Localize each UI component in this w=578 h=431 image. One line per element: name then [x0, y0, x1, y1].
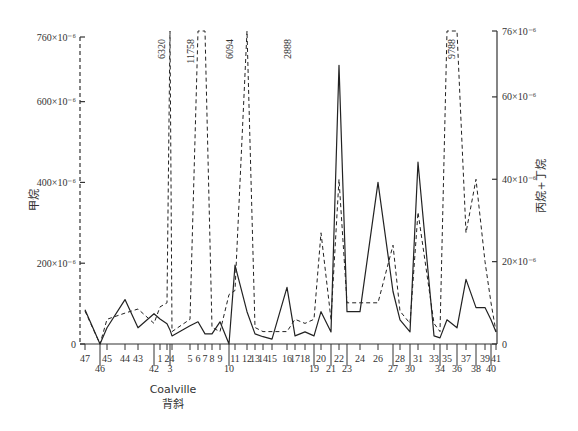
x-tick-label: 42	[149, 363, 159, 374]
x-tick-label: 24	[355, 353, 365, 364]
left-axis-title: 甲烷	[27, 189, 41, 211]
off-scale-value-label: 2888	[282, 39, 293, 59]
off-scale-value-label: 6094	[224, 39, 235, 59]
x-tick-label: 8	[210, 353, 215, 364]
left-tick-label: 400×10⁻⁶	[37, 177, 77, 188]
x-tick-label: 17	[290, 353, 300, 364]
x-tick-label: 35	[442, 353, 452, 364]
x-tick-label: 15	[267, 353, 277, 364]
chart: 0200×10⁻⁶400×10⁻⁶600×10⁻⁶760×10⁻⁶ 020×10…	[0, 0, 578, 431]
propane-butane-line	[85, 31, 496, 344]
x-tick-label: 36	[452, 363, 462, 374]
right-tick-label: 76×10⁻⁶	[502, 26, 537, 37]
x-tick-label: 19	[309, 363, 319, 374]
off-scale-value-label: 11758	[185, 39, 196, 64]
x-tick-label: 11	[230, 353, 240, 364]
off-scale-annotations: 632011758609428889788	[156, 39, 457, 64]
x-tick-label: 31	[413, 353, 423, 364]
x-tick-label: 28	[395, 353, 405, 364]
off-scale-value-label: 6320	[156, 39, 167, 59]
left-y-axis: 0200×10⁻⁶400×10⁻⁶600×10⁻⁶760×10⁻⁶	[37, 32, 85, 350]
x-tick-label: 40	[486, 363, 496, 374]
x-axis: 4746454443421234567891011121314151617181…	[80, 344, 501, 374]
methane-line	[85, 65, 496, 344]
right-tick-label: 60×10⁻⁶	[502, 91, 537, 102]
x-tick-label: 4	[170, 353, 175, 364]
x-tick-label: 5	[188, 353, 193, 364]
x-tick-label: 30	[405, 363, 415, 374]
x-tick-label: 7	[203, 353, 208, 364]
right-tick-label: 0	[502, 339, 507, 350]
x-tick-label: 9	[218, 353, 223, 364]
x-tick-label: 41	[491, 353, 501, 364]
left-tick-label: 760×10⁻⁶	[37, 32, 77, 43]
x-tick-label: 34	[435, 363, 445, 374]
x-tick-label: 23	[342, 363, 352, 374]
x-tick-label: 47	[80, 353, 90, 364]
left-tick-label: 600×10⁻⁶	[37, 96, 77, 107]
right-y-axis: 020×10⁻⁶40×10⁻⁶60×10⁻⁶76×10⁻⁶	[492, 26, 537, 350]
x-tick-label: 20	[316, 353, 326, 364]
right-axis-title: 丙烷+丁烷	[534, 159, 548, 212]
x-axis-title-line2: 背斜	[162, 397, 184, 411]
x-tick-label: 27	[388, 363, 398, 374]
x-tick-label: 44	[120, 353, 130, 364]
x-tick-label: 1	[158, 353, 163, 364]
x-tick-label: 6	[196, 353, 201, 364]
left-tick-label: 200×10⁻⁶	[37, 258, 77, 269]
x-tick-label: 43	[133, 353, 143, 364]
x-tick-label: 3	[168, 363, 173, 374]
left-tick-label: 0	[71, 339, 76, 350]
x-tick-label: 38	[471, 363, 481, 374]
x-tick-label: 26	[373, 353, 383, 364]
x-tick-label: 45	[102, 353, 112, 364]
x-tick-label: 21	[326, 363, 336, 374]
x-tick-label: 46	[95, 363, 105, 374]
x-tick-label: 10	[224, 363, 234, 374]
off-scale-value-label: 9788	[446, 39, 457, 59]
x-axis-title-line1: Coalville	[150, 383, 197, 396]
x-tick-label: 37	[461, 353, 471, 364]
right-tick-label: 40×10⁻⁶	[502, 174, 537, 185]
right-tick-label: 20×10⁻⁶	[502, 256, 537, 267]
